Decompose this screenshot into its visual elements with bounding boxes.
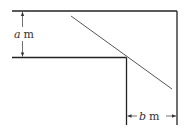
b-label: bm: [139, 110, 160, 123]
corridor-diagram: am bm: [0, 0, 184, 128]
rod: [71, 16, 172, 89]
a-label: am: [14, 28, 35, 41]
